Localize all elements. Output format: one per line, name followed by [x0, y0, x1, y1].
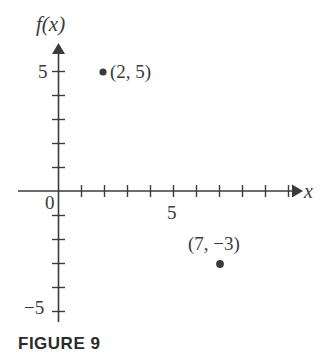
x-axis-arrowhead — [292, 185, 303, 198]
data-point-2-5 — [99, 68, 106, 75]
figure-caption: FIGURE 9 — [18, 334, 100, 354]
data-point-7-neg3 — [216, 260, 224, 268]
y-tick-label-negative-5: −5 — [24, 298, 44, 317]
data-point-label-7-neg3: (7, −3) — [188, 234, 240, 253]
y-axis-arrowhead — [52, 43, 65, 54]
y-tick-label-5: 5 — [38, 62, 48, 81]
y-axis-label: f(x) — [36, 14, 65, 35]
x-tick-label-5: 5 — [167, 203, 177, 222]
origin-label: 0 — [45, 193, 55, 212]
data-point-label-2-5: (2, 5) — [110, 62, 151, 81]
coordinate-plane-graph — [0, 0, 327, 358]
x-axis-label: x — [304, 181, 313, 201]
figure-container: f(x) x 5 −5 0 5 (2, 5) (7, −3) FIGURE 9 — [0, 0, 327, 358]
